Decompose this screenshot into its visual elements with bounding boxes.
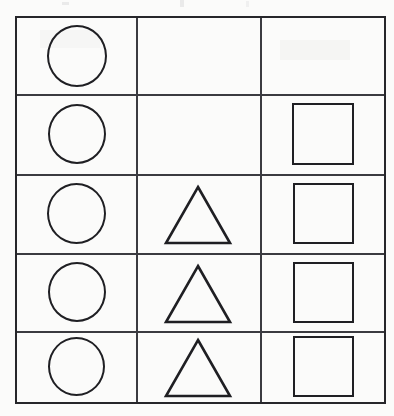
grid-cell-r4c1[interactable]	[17, 253, 136, 331]
triangle-shape	[163, 263, 233, 325]
circle-shape	[48, 262, 106, 322]
circle-shape	[48, 337, 105, 396]
grid-cell-r5c2[interactable]	[136, 331, 260, 402]
square-shape	[293, 336, 354, 397]
square-shape	[293, 183, 354, 244]
grid-cell-r5c1[interactable]	[17, 331, 136, 402]
grid-cell-r1c1[interactable]	[17, 18, 136, 94]
grid-cell-r2c3[interactable]	[260, 94, 384, 174]
square-shape	[293, 262, 354, 323]
grid-cell-r3c2[interactable]	[136, 174, 260, 253]
triangle-shape	[163, 337, 233, 399]
grid-cell-r2c1[interactable]	[17, 94, 136, 174]
scan-artifact-mark	[246, 1, 249, 7]
shape-grid	[15, 16, 386, 404]
grid-cell-r1c3[interactable]	[260, 18, 384, 94]
circle-shape	[48, 104, 106, 164]
grid-cell-r4c2[interactable]	[136, 253, 260, 331]
square-shape	[292, 103, 354, 165]
grid-cell-r3c3[interactable]	[260, 174, 384, 253]
circle-shape	[47, 183, 106, 244]
grid-cell-r1c2[interactable]	[136, 18, 260, 94]
triangle-shape	[163, 184, 233, 246]
worksheet-page	[0, 0, 394, 416]
circle-shape	[47, 25, 107, 87]
grid-cell-r4c3[interactable]	[260, 253, 384, 331]
grid-cell-r5c3[interactable]	[260, 331, 384, 402]
grid-cell-r2c2[interactable]	[136, 94, 260, 174]
scan-artifact-mark	[62, 2, 69, 5]
scan-artifact-mark	[180, 0, 184, 7]
grid-cell-r3c1[interactable]	[17, 174, 136, 253]
